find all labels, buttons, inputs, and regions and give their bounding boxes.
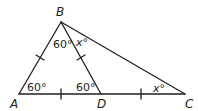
- vertex-label-a: A: [9, 97, 18, 111]
- angle-label-adb: 60°: [76, 81, 96, 94]
- angle-label-dbc: x°: [75, 36, 88, 49]
- vertex-label-c: C: [185, 97, 194, 111]
- angle-label-a: 60°: [27, 81, 47, 94]
- triangle-diagram: B A D C 60° x° 60° 60° x°: [0, 0, 198, 111]
- vertex-label-b: B: [56, 5, 64, 19]
- angle-label-abd: 60°: [53, 38, 73, 51]
- angle-label-c: x°: [152, 82, 165, 95]
- vertex-label-d: D: [97, 97, 106, 111]
